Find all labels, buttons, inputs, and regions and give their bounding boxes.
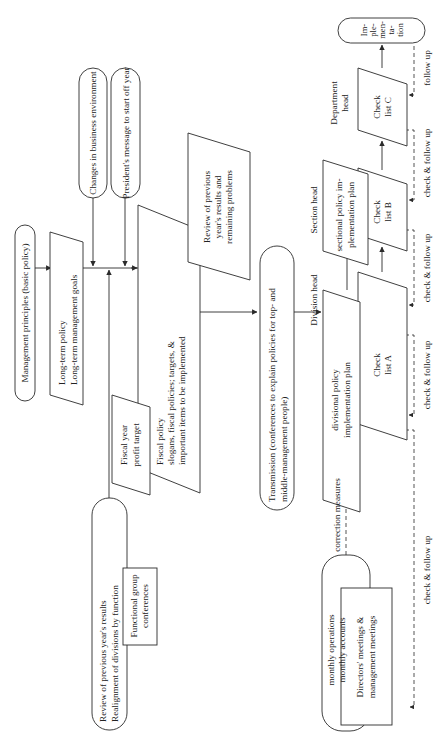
long-term-policy-line2: Long-term management goals <box>69 274 79 385</box>
monthly-ops-line2: monthly accounts <box>337 617 347 682</box>
functional-group-line2: conferences <box>140 584 150 628</box>
management-principles-text: Management principles (basic policy) <box>20 243 30 382</box>
section-plan-line1: sectional policy im- <box>334 179 344 252</box>
fiscal-policy-line1: Fiscal policy <box>155 417 165 465</box>
presidents-message-text: President's message to start off year <box>121 67 131 198</box>
department-head-label1: Department <box>329 81 339 125</box>
check-list-b-line1: Check <box>372 200 382 224</box>
implementation-line5: tion <box>395 23 405 37</box>
monthly-ops-line1: monthly operations <box>326 614 336 686</box>
section-plan-line2: plementation plan <box>346 182 356 248</box>
section-head-label: Section head <box>309 186 319 234</box>
fiscal-policy-line3: important items to be implemented <box>177 336 187 465</box>
review-problems-line1: Review of previous <box>202 171 212 243</box>
check-list-c-line2: list C <box>383 97 393 117</box>
transmission-line2: middle-management people) <box>279 397 289 502</box>
review-realignment-line2: Realignment of divisions by function <box>110 585 120 722</box>
check-follow-up-label-4: check & follow up <box>422 128 432 197</box>
review-problems-line3: remaining problems <box>224 170 234 244</box>
functional-group-line1: Functional group <box>129 574 139 637</box>
check-follow-up-label-2: check & follow up <box>422 340 432 409</box>
division-plan-line1: divisional policy <box>330 369 340 431</box>
check-list-c-line1: Check <box>372 95 382 119</box>
long-term-policy-line1: Long-term policy <box>57 320 67 385</box>
check-list-a-line1: Check <box>372 353 382 377</box>
follow-up-label: follow up <box>422 50 432 86</box>
fiscal-profit-target-line1: Fiscal year <box>119 425 129 465</box>
directors-meetings-line2: management meetings <box>367 615 377 698</box>
management-policy-flowchart: Management principles (basic policy) Lon… <box>0 0 442 732</box>
division-plan-line2: implementation plan <box>342 362 352 438</box>
check-list-a-line2: list A <box>383 355 393 375</box>
correction-measures-label: correction measures <box>332 478 342 552</box>
transmission-line1: Transmission (conferences to explain pol… <box>267 288 277 502</box>
review-realignment-line1: Review of previous year's results <box>98 600 108 722</box>
directors-meetings-line1: Directors' meetings & <box>355 617 365 698</box>
check-follow-up-label-1: check & follow up <box>422 535 432 604</box>
division-head-label: Division head <box>309 274 319 326</box>
fiscal-policy-line2: slogans, fiscal policies; targets, & <box>166 341 176 465</box>
check-follow-up-label-3: check & follow up <box>422 233 432 302</box>
fiscal-profit-target-line2: profit target <box>131 423 141 467</box>
check-list-b-line2: list B <box>383 202 393 222</box>
changes-environment-text: Changes in business environment <box>88 71 98 195</box>
department-head-label2: head <box>340 94 350 112</box>
review-problems-line2: year's results and <box>213 175 223 238</box>
